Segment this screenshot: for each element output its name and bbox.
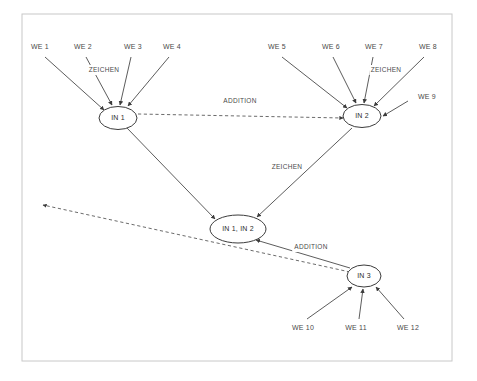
- edge-we12-in3: [376, 287, 404, 319]
- source-label-we7[interactable]: WE 7: [365, 43, 383, 50]
- edge-we9-in2: [383, 101, 408, 116]
- edge-we8-in2: [374, 57, 424, 106]
- edge-we3-in1: [120, 57, 131, 105]
- source-label-we8[interactable]: WE 8: [419, 43, 437, 50]
- edge-we11-in3: [359, 289, 363, 319]
- edge-we4-in1: [128, 57, 169, 106]
- edge-label-zeichen-in2: ZEICHEN: [371, 66, 402, 73]
- nodes-layer: IN 1IN 2IN 1, IN 2IN 3: [99, 105, 381, 288]
- node-in12[interactable]: IN 1, IN 2: [210, 215, 266, 243]
- edge-label-zeichen-in1: ZEICHEN: [89, 66, 120, 73]
- edge-in1-in2-addition: [138, 114, 343, 118]
- source-label-we6[interactable]: WE 6: [322, 43, 340, 50]
- edge-we6-in2: [333, 57, 356, 103]
- source-label-we11[interactable]: WE 11: [345, 324, 367, 331]
- source-label-we5[interactable]: WE 5: [268, 43, 286, 50]
- source-label-we4[interactable]: WE 4: [163, 43, 181, 50]
- node-label-in1: IN 1: [111, 114, 125, 121]
- node-label-in3: IN 3: [357, 272, 371, 279]
- edge-label-zeichen-mid: ZEICHEN: [272, 163, 303, 170]
- edge-in2-in12: [257, 128, 352, 217]
- edge-label-addition-bot: ADDITION: [294, 243, 327, 250]
- source-label-we3[interactable]: WE 3: [124, 43, 142, 50]
- node-in1[interactable]: IN 1: [99, 107, 137, 130]
- source-label-we12[interactable]: WE 12: [397, 324, 419, 331]
- diagram-canvas: IN 1IN 2IN 1, IN 2IN 3 WE 1WE 2WE 3WE 4W…: [0, 0, 477, 381]
- source-label-we10[interactable]: WE 10: [292, 324, 314, 331]
- source-label-we2[interactable]: WE 2: [74, 43, 92, 50]
- graph-svg: IN 1IN 2IN 1, IN 2IN 3 WE 1WE 2WE 3WE 4W…: [0, 0, 477, 381]
- node-label-in12: IN 1, IN 2: [222, 225, 254, 232]
- edge-we10-in3: [307, 287, 352, 319]
- edge-we7-in2: [364, 57, 373, 103]
- source-label-we9[interactable]: WE 9: [418, 93, 436, 100]
- edge-in1-in12: [127, 128, 215, 219]
- source-label-we1[interactable]: WE 1: [31, 43, 49, 50]
- edge-in3-out-addition: [43, 205, 350, 272]
- edge-label-addition-top: ADDITION: [223, 97, 256, 104]
- node-in2[interactable]: IN 2: [343, 105, 381, 128]
- node-in3[interactable]: IN 3: [347, 265, 381, 287]
- node-label-in2: IN 2: [355, 112, 369, 119]
